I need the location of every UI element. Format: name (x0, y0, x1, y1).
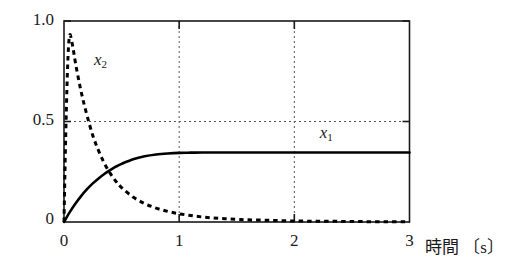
y-tick-label-0.5: 0.5 (33, 110, 54, 129)
curve-label-x1-subscript: 1 (327, 130, 333, 142)
x-tick-label-0: 0 (60, 231, 69, 250)
y-tick-label-1.0: 1.0 (33, 10, 54, 29)
y-tick-label-0: 0 (46, 209, 55, 228)
line-chart-figure: 1.0 0.5 0 0 1 2 3 時間 〔s〕 x1 x2 (0, 0, 525, 276)
x-axis-title: 時間 〔s〕 (425, 238, 504, 257)
x-tick-label-1: 1 (175, 231, 184, 250)
curve-label-x2-subscript: 2 (101, 58, 107, 70)
x-tick-label-2: 2 (290, 231, 299, 250)
x-tick-label-3: 3 (405, 231, 414, 250)
chart-screenshot: 1.0 0.5 0 0 1 2 3 時間 〔s〕 x1 x2 (0, 0, 525, 276)
chart-background (0, 0, 525, 276)
